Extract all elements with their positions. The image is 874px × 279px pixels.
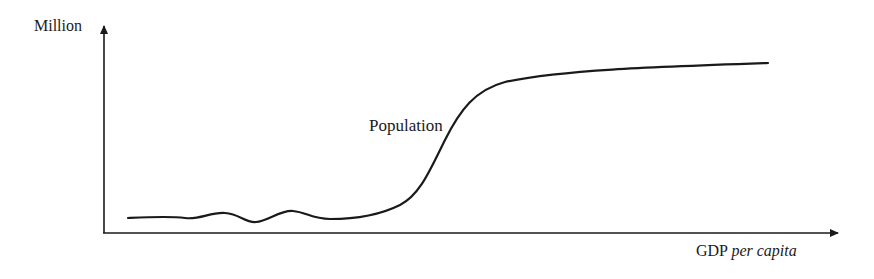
population-curve-diagram xyxy=(0,0,874,279)
x-axis-label-regular: GDP xyxy=(696,242,727,259)
x-axis-label: GDP per capita xyxy=(696,242,797,260)
x-axis-label-italic: per capita xyxy=(731,242,796,259)
population-curve xyxy=(128,63,768,222)
curve-label: Population xyxy=(369,117,443,135)
y-axis-label: Million xyxy=(34,17,82,35)
